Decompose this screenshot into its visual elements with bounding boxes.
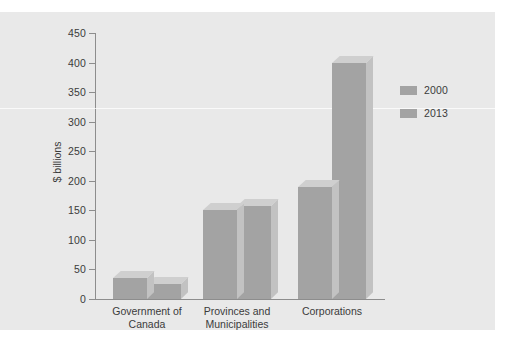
category-label: Corporations <box>267 305 397 318</box>
bar <box>298 187 332 299</box>
y-tick-label: 0 <box>80 293 86 305</box>
y-tick-mark <box>89 240 95 241</box>
y-tick-label: 200 <box>68 175 86 187</box>
bar <box>203 210 237 299</box>
legend-swatch <box>400 109 417 118</box>
bar-top-face <box>298 180 340 187</box>
y-axis-label: $ billions <box>51 142 63 183</box>
y-tick-mark <box>89 210 95 211</box>
y-tick-label: 450 <box>68 27 86 39</box>
bar-side-face <box>271 199 278 299</box>
bar-side-face <box>332 180 339 299</box>
y-tick-label: 50 <box>74 263 86 275</box>
bar-front-face <box>113 278 147 299</box>
y-tick-mark <box>89 63 95 64</box>
y-tick-mark <box>89 151 95 152</box>
chart-legend: 20002013 <box>400 84 448 130</box>
bar <box>113 278 147 299</box>
y-tick-label: 300 <box>68 116 86 128</box>
legend-swatch <box>400 86 417 95</box>
plot-area: 050100150200250300350400450 Government o… <box>95 33 385 300</box>
y-tick-label: 100 <box>68 234 86 246</box>
y-tick-mark <box>89 269 95 270</box>
legend-label: 2000 <box>424 84 448 96</box>
bar-top-face <box>332 56 374 63</box>
y-tick-mark <box>89 299 95 300</box>
bar-front-face <box>298 187 332 299</box>
bar-front-face <box>203 210 237 299</box>
y-tick-label: 350 <box>68 86 86 98</box>
category-label-line: Municipalities <box>172 318 302 331</box>
y-tick-label: 250 <box>68 145 86 157</box>
y-tick-label: 150 <box>68 204 86 216</box>
category-label-line: Corporations <box>267 305 397 318</box>
y-tick-mark <box>89 181 95 182</box>
legend-item: 2000 <box>400 84 448 96</box>
bar-side-face <box>237 204 244 299</box>
y-tick-label: 400 <box>68 57 86 69</box>
bar-side-face <box>366 56 373 299</box>
x-axis-line <box>95 299 385 300</box>
chart-panel: $ billions 050100150200250300350400450 G… <box>0 12 495 330</box>
y-tick-mark <box>89 92 95 93</box>
y-tick-mark <box>89 33 95 34</box>
y-tick-mark <box>89 122 95 123</box>
scan-artifact <box>0 108 508 109</box>
y-axis-line <box>95 33 96 300</box>
